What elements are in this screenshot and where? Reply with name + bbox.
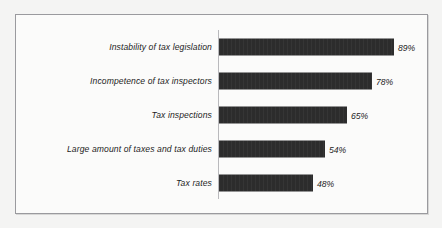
bar-row: Instability of tax legislation 89% (16, 30, 427, 64)
bar-category-label: Instability of tax legislation (17, 42, 212, 52)
bar-row: Incompetence of tax inspectors 78% (16, 64, 427, 98)
bar-row: Tax rates 48% (16, 166, 427, 200)
bar-value-label: 78% (376, 76, 393, 86)
bar-tax-inspections: 65% (219, 107, 347, 124)
bar-value-label: 48% (317, 178, 334, 188)
bar-value-label: 65% (351, 110, 368, 120)
bar-tax-rates: 48% (219, 175, 313, 192)
bar-category-label: Incompetence of tax inspectors (17, 76, 212, 86)
chart-frame: Instability of tax legislation 89% Incom… (15, 14, 428, 214)
bar-large-amount-of-taxes-and-tax-duties: 54% (219, 141, 325, 158)
bar-category-label: Tax rates (17, 178, 212, 188)
bar-row: Large amount of taxes and tax duties 54% (16, 132, 427, 166)
bar-category-label: Tax inspections (17, 110, 212, 120)
bar-incompetence-of-tax-inspectors: 78% (219, 73, 372, 90)
bar-value-label: 89% (398, 42, 415, 52)
bar-category-label: Large amount of taxes and tax duties (17, 144, 212, 154)
bar-instability-of-tax-legislation: 89% (219, 39, 394, 56)
bar-value-label: 54% (329, 144, 346, 154)
plot-area: Instability of tax legislation 89% Incom… (16, 15, 427, 213)
bar-row: Tax inspections 65% (16, 98, 427, 132)
